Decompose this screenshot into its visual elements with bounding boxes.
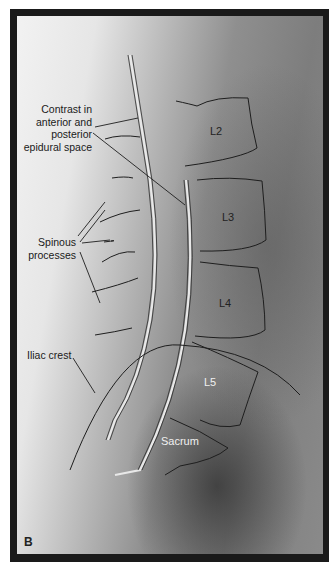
annotation-overlay [0, 0, 334, 567]
contrast-label-line: Contrast in [20, 103, 92, 116]
spinous-outlines [92, 136, 140, 335]
catheter-lines [108, 55, 190, 475]
iliac-crest-label: Iliac crest [27, 349, 71, 362]
spinous-processes-label: Spinous processes [20, 236, 76, 261]
contrast-label-line: anterior and [20, 116, 92, 129]
l5-outline [192, 342, 258, 427]
l2-label: L2 [210, 125, 222, 137]
l4-label: L4 [219, 297, 231, 309]
spinous-label-line: processes [20, 249, 76, 262]
panel-letter: B [24, 535, 33, 549]
iliac-crest-outline [70, 345, 300, 470]
contrast-label-line: posterior [20, 128, 92, 141]
vertebra-outlines [165, 98, 266, 475]
sacrum-label: Sacrum [161, 435, 199, 447]
contrast-label: Contrast in anterior and posterior epidu… [20, 103, 92, 153]
spinous-label-line: Spinous [20, 236, 76, 249]
l3-label: L3 [222, 211, 234, 223]
contrast-label-line: epidural space [20, 141, 92, 154]
leader-lines [73, 118, 185, 393]
l5-label: L5 [204, 376, 216, 388]
